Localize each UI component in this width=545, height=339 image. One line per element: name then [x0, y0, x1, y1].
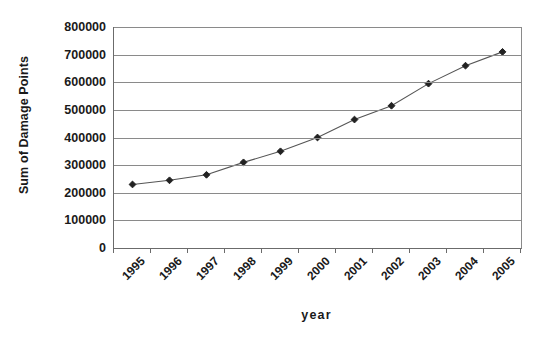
data-point-marker: [425, 80, 432, 87]
plot-area: [113, 27, 522, 249]
gridline: [114, 55, 521, 56]
data-point-marker: [166, 177, 173, 184]
data-point-marker: [129, 181, 136, 188]
gridline: [114, 27, 521, 28]
y-axis-tick-label: 600000: [64, 75, 106, 89]
gridline: [114, 138, 521, 139]
y-axis-tick-label: 700000: [64, 48, 106, 62]
gridline: [114, 165, 521, 166]
x-axis-tick-labels: 1995199619971998199920002001200220032004…: [113, 254, 520, 304]
y-axis-tick-label: 0: [99, 241, 106, 255]
y-axis-tick-label: 200000: [64, 186, 106, 200]
y-axis-tick-label: 300000: [64, 158, 106, 172]
y-axis-tick-label: 100000: [64, 213, 106, 227]
data-point-marker: [462, 62, 469, 69]
line-chart: Sum of Damage Points 8000007000006000005…: [0, 0, 545, 339]
y-axis-tick-label: 500000: [64, 103, 106, 117]
data-point-marker: [388, 102, 395, 109]
gridline: [114, 82, 521, 83]
x-axis-title: year: [113, 308, 520, 322]
gridline: [114, 110, 521, 111]
data-point-marker: [277, 148, 284, 155]
gridline: [114, 220, 521, 221]
y-axis-title-text: Sum of Damage Points: [17, 56, 31, 194]
data-point-marker: [351, 116, 358, 123]
gridline: [114, 193, 521, 194]
x-axis-tick: [113, 248, 114, 253]
data-point-marker: [203, 171, 210, 178]
y-axis-tick-label: 400000: [64, 131, 106, 145]
y-axis-tick-label: 800000: [64, 20, 106, 34]
y-axis-tick-labels: 8000007000006000005000004000003000002000…: [38, 27, 106, 248]
